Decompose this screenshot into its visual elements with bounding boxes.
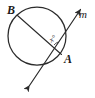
circle-shape xyxy=(8,7,66,65)
label-point-b: B xyxy=(6,3,15,17)
label-line-m: m xyxy=(79,8,87,20)
secant-line-m xyxy=(30,10,81,86)
label-point-a: A xyxy=(63,52,72,66)
geometry-canvas: B A m x° xyxy=(0,0,95,98)
geometry-figure: B A m x° xyxy=(0,0,95,98)
